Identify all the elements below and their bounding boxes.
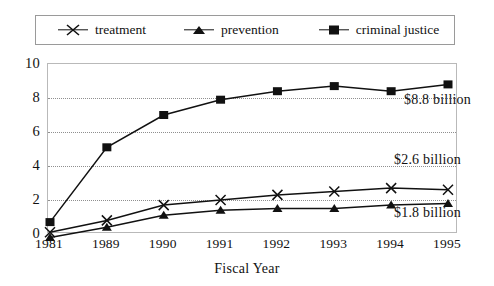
y-tick-10: 10 (10, 55, 40, 72)
y-tick-6: 6 (10, 123, 40, 140)
legend-label-prevention: prevention (221, 22, 279, 38)
annotation-criminal-justice: $8.8 billion (404, 92, 471, 108)
x-tick-1989: 1989 (92, 236, 120, 252)
y-tick-2: 2 (10, 191, 40, 208)
x-tick-1993: 1993 (319, 236, 347, 252)
y-tick-8: 8 (10, 89, 40, 106)
triangle-marker-icon (184, 23, 214, 37)
legend-item-criminal-justice: criminal justice (319, 22, 440, 38)
y-tick-4: 4 (10, 157, 40, 174)
legend-label-treatment: treatment (95, 22, 146, 38)
chart-legend: treatment prevention crimi (35, 15, 455, 45)
x-axis-title: Fiscal Year (0, 261, 494, 277)
x-tick-1990: 1990 (149, 236, 177, 252)
annotation-treatment: $2.6 billion (394, 152, 461, 168)
x-tick-1994: 1994 (376, 236, 404, 252)
y-axis-labels: 0246810 (6, 63, 40, 233)
x-axis-labels: 19811989199019911992199319941995 (47, 236, 457, 256)
x-tick-1992: 1992 (263, 236, 291, 252)
annotation-prevention: $1.8 billion (394, 205, 461, 221)
x-tick-1981: 1981 (35, 236, 63, 252)
legend-item-treatment: treatment (58, 22, 146, 38)
chart-figure: treatment prevention crimi (0, 0, 494, 286)
legend-item-prevention: prevention (184, 22, 279, 38)
x-tick-1995: 1995 (433, 236, 461, 252)
square-marker-icon (319, 23, 349, 37)
x-marker-icon (58, 23, 88, 37)
legend-label-criminal-justice: criminal justice (356, 22, 440, 38)
x-tick-1991: 1991 (206, 236, 234, 252)
